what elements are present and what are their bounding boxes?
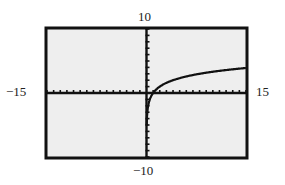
graph-window bbox=[0, 0, 285, 185]
xmax-label: 15 bbox=[256, 85, 269, 98]
xmin-label: −15 bbox=[6, 85, 26, 98]
ymax-label: 10 bbox=[138, 10, 151, 23]
ymin-label: −10 bbox=[133, 164, 153, 177]
